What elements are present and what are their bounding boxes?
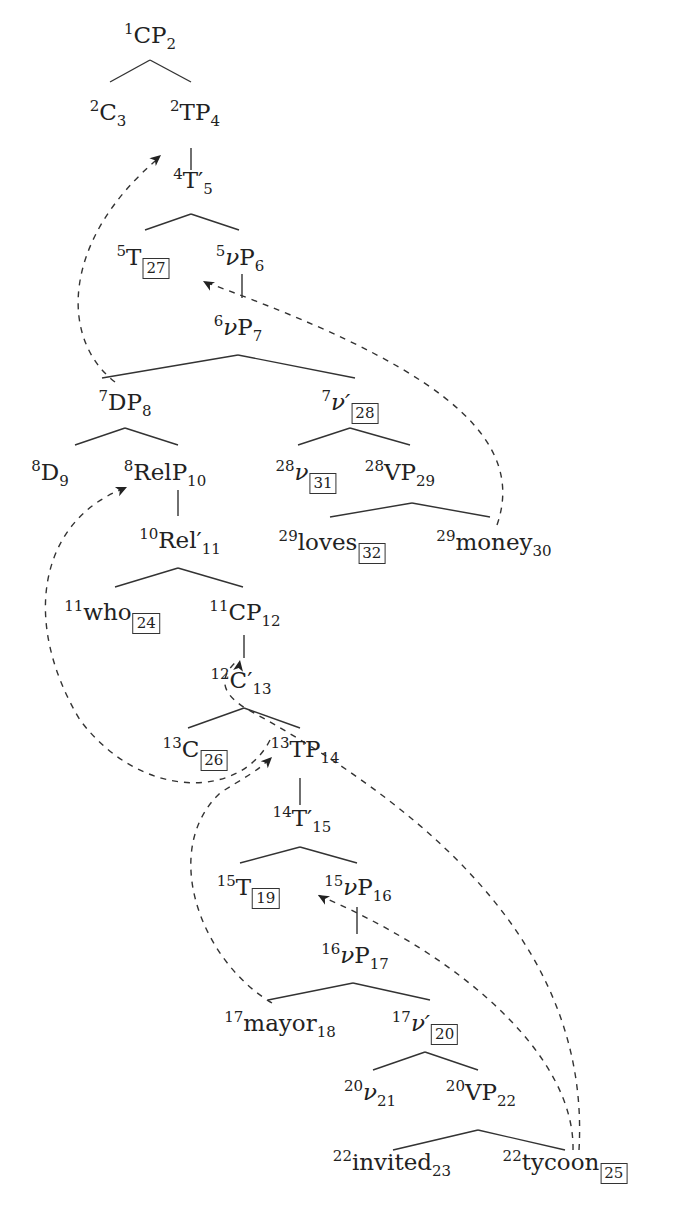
node-left-index: 22 — [333, 1147, 352, 1165]
node-left-index: 11 — [64, 597, 83, 615]
tree-branch — [150, 60, 191, 82]
node-left-index: 20 — [344, 1077, 363, 1095]
tree-branch — [75, 428, 125, 445]
node-left-index: 1 — [124, 20, 134, 38]
tree-branch — [393, 1130, 478, 1150]
tree-node-n28: 20ν21 — [344, 1081, 396, 1104]
node-left-index: 22 — [503, 1147, 522, 1165]
node-left-index: 28 — [365, 457, 384, 475]
node-right-index-boxed: 31 — [309, 473, 336, 494]
node-category: CP — [133, 22, 166, 48]
tree-branch — [373, 1052, 425, 1070]
node-category: TP — [290, 736, 321, 762]
tree-node-n31: 22tycoon25 — [503, 1151, 628, 1184]
node-right-index: 8 — [142, 402, 152, 420]
node-left-index: 28 — [275, 457, 294, 475]
node-right-index-boxed: 32 — [358, 543, 385, 564]
tree-branch — [350, 428, 410, 445]
node-category: ν — [343, 874, 357, 900]
node-left-index: 12 — [210, 665, 229, 683]
tree-branch — [412, 503, 490, 517]
tree-node-n26: 17mayor18 — [224, 1012, 336, 1035]
node-category: ν — [225, 244, 239, 270]
tree-node-n29: 20VP22 — [446, 1081, 516, 1104]
node-right-index-boxed: 27 — [142, 258, 169, 279]
node-left-index: 8 — [31, 457, 41, 475]
node-right-index: 30 — [533, 542, 552, 560]
node-right-index: 18 — [317, 1023, 336, 1041]
tree-node-n21: 13TP14 — [270, 738, 339, 761]
tree-node-n22: 14T′15 — [273, 807, 332, 830]
node-right-index: 9 — [59, 472, 69, 490]
node-category: TP — [180, 99, 211, 125]
tree-node-n16: 29money30 — [436, 531, 551, 554]
tree-branch — [125, 428, 178, 445]
tree-branch — [110, 60, 150, 82]
tree-branch — [353, 983, 430, 1000]
node-right-index-boxed: 24 — [133, 613, 160, 634]
node-left-index: 15 — [217, 872, 236, 890]
movement-arrows — [45, 157, 579, 1150]
tree-node-n8: 7DP8 — [98, 391, 151, 414]
syntax-tree-diagram: 1CP22C32TP44T′55T275νP66νP77DP87ν′288D98… — [0, 0, 676, 1229]
node-category: mayor — [243, 1010, 316, 1036]
tree-node-n5: 5T27 — [117, 246, 170, 279]
node-left-index: 10 — [139, 525, 158, 543]
node-category: T′ — [292, 805, 313, 831]
tree-node-n20: 13C26 — [163, 738, 228, 771]
node-right-index: 2 — [167, 35, 177, 53]
tree-node-n4: 4T′5 — [173, 169, 213, 192]
tree-node-n27: 17ν′20 — [392, 1012, 458, 1045]
node-left-index: 11 — [209, 597, 228, 615]
node-category: invited — [352, 1149, 432, 1175]
node-category: T — [126, 244, 141, 270]
arrowhead-icon — [115, 482, 129, 496]
node-right-index: 22 — [497, 1092, 516, 1110]
node-category: ν — [340, 942, 354, 968]
tree-branch — [244, 708, 300, 728]
tree-branch — [240, 847, 300, 863]
node-category: CP — [228, 599, 261, 625]
node-left-index: 13 — [270, 734, 289, 752]
node-category: ν — [295, 459, 309, 485]
node-left-index: 29 — [436, 527, 455, 545]
tree-node-n19: 12C′13 — [210, 669, 271, 692]
node-category-suffix: P — [237, 314, 252, 340]
tree-node-n17: 11who24 — [64, 601, 160, 634]
node-left-index: 5 — [216, 242, 226, 260]
node-right-index-boxed: 20 — [431, 1024, 458, 1045]
node-left-index: 8 — [124, 457, 134, 475]
node-category: RelP — [133, 459, 187, 485]
node-left-index: 2 — [170, 97, 180, 115]
tree-node-n11: 8RelP10 — [124, 461, 206, 484]
tree-branch — [330, 503, 412, 517]
node-right-index: 16 — [373, 887, 392, 905]
node-right-index: 13 — [252, 680, 271, 698]
tree-node-n24: 15νP16 — [324, 876, 392, 899]
tree-node-n13: 28VP29 — [365, 461, 435, 484]
tree-node-n30: 22invited23 — [333, 1151, 451, 1174]
node-category-suffix: P — [354, 942, 369, 968]
node-right-index-boxed: 19 — [252, 888, 279, 909]
tree-node-n9: 7ν′28 — [322, 391, 379, 424]
node-category-suffix: P — [239, 244, 254, 270]
tree-node-n6: 5νP6 — [216, 246, 265, 269]
node-category: ν — [363, 1079, 377, 1105]
node-right-index: 23 — [432, 1162, 451, 1180]
node-left-index: 17 — [224, 1008, 243, 1026]
tree-branch — [238, 355, 355, 378]
node-category: Rel′ — [158, 527, 202, 553]
node-category: who — [83, 599, 131, 625]
node-left-index: 7 — [322, 387, 332, 405]
node-left-index: 2 — [90, 97, 100, 115]
node-right-index: 11 — [202, 540, 221, 558]
node-category: D — [41, 459, 59, 485]
node-right-index: 4 — [210, 112, 220, 130]
node-category: T — [236, 874, 251, 900]
node-left-index: 15 — [324, 872, 343, 890]
tree-branch — [425, 1052, 478, 1070]
tree-node-n7: 6νP7 — [214, 316, 263, 339]
tree-branch — [145, 214, 191, 230]
node-right-index: 7 — [253, 327, 263, 345]
node-right-index: 29 — [416, 472, 435, 490]
